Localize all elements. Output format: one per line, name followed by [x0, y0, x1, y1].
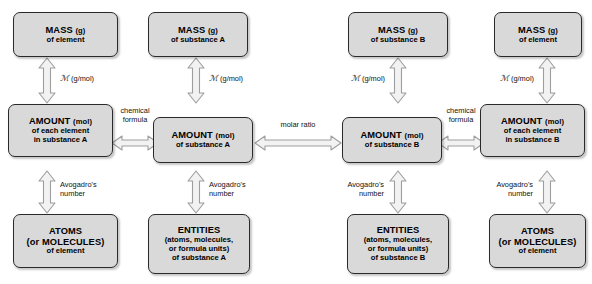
arrow-amount-atoms-col4: [538, 170, 556, 214]
arrow-amount-atoms-col1: [38, 170, 56, 214]
arrow-amount-entities-col3: [389, 170, 407, 214]
box-mass-substance-a: MASS (g) of substance A: [148, 12, 248, 57]
arrow-chemical-formula-right: [437, 135, 485, 151]
box-title: MASS (g): [46, 25, 86, 36]
arrow-chemical-formula-left: [111, 135, 159, 151]
box-subtitle: of substance A: [171, 36, 225, 45]
avogadro-line-1: Avogadro's: [330, 180, 384, 189]
box-subtitle-3: of substance B: [371, 254, 425, 263]
arrow-mass-amount-col4: [538, 57, 556, 104]
box-subtitle-2: of element: [47, 247, 85, 256]
chemical-line-2: formula: [436, 115, 486, 124]
box-subtitle: of substance B: [371, 36, 425, 45]
box-subtitle-2: in substance A: [34, 136, 88, 145]
chemical-line-1: chemical: [110, 106, 160, 115]
box-mass-substance-b: MASS (g) of substance B: [348, 12, 448, 57]
box-subtitle-3: of substance A: [172, 254, 226, 263]
molar-mass-symbol: ℳ: [500, 74, 509, 83]
box-atoms-element-right: ATOMS (or MOLECULES) of element: [489, 214, 586, 268]
avogadro-line-2: number: [209, 189, 246, 198]
chemical-line-2: formula: [110, 115, 160, 124]
box-amount-each-element-b: AMOUNT (mol) of each element in substanc…: [480, 104, 585, 157]
arrow-mass-amount-col3: [389, 57, 407, 104]
box-subtitle: of substance A: [176, 141, 230, 150]
molar-mass-symbol: ℳ: [209, 74, 218, 83]
box-title: ATOMS: [49, 226, 82, 237]
label-molar-mass-col4: ℳ (g/mol): [479, 74, 534, 84]
label-chemical-formula-left: chemical formula: [110, 106, 160, 124]
label-avogadro-col1: Avogadro's number: [60, 180, 97, 198]
molar-mass-units: (g/mol): [362, 74, 385, 83]
avogadro-line-1: Avogadro's: [209, 180, 246, 189]
label-avogadro-col2: Avogadro's number: [209, 180, 246, 198]
label-chemical-formula-right: chemical formula: [436, 106, 486, 124]
box-entities-substance-a: ENTITIES (atoms, molecules, or formula u…: [148, 214, 250, 274]
box-title: MASS (g): [178, 25, 218, 36]
box-amount-each-element-a: AMOUNT (mol) of each element in substanc…: [8, 104, 113, 157]
box-mass-element-right: MASS (g) of element: [494, 12, 582, 57]
molar-mass-symbol: ℳ: [351, 74, 360, 83]
avogadro-line-2: number: [479, 189, 533, 198]
label-molar-mass-col3: ℳ (g/mol): [330, 74, 385, 84]
box-subtitle: of element: [519, 36, 557, 45]
box-entities-substance-b: ENTITIES (atoms, molecules, or formula u…: [347, 214, 449, 274]
avogadro-line-1: Avogadro's: [479, 180, 533, 189]
label-molar-mass-col1: ℳ (g/mol): [60, 74, 94, 84]
molar-ratio-text: molar ratio: [254, 120, 342, 129]
avogadro-line-1: Avogadro's: [60, 180, 97, 189]
box-subtitle: of substance B: [365, 141, 419, 150]
box-title: MASS (g): [518, 25, 558, 36]
arrow-amount-entities-col2: [187, 170, 205, 214]
arrow-mass-amount-col2: [187, 57, 205, 104]
box-title: ATOMS: [521, 226, 554, 237]
box-amount-substance-a: AMOUNT (mol) of substance A: [153, 117, 253, 163]
avogadro-line-2: number: [60, 189, 97, 198]
avogadro-line-2: number: [330, 189, 384, 198]
arrow-molar-ratio: [254, 135, 342, 151]
label-avogadro-col3: Avogadro's number: [330, 180, 384, 198]
box-amount-substance-b: AMOUNT (mol) of substance B: [342, 117, 442, 163]
molar-mass-units: (g/mol): [71, 74, 94, 83]
label-molar-ratio: molar ratio: [254, 120, 342, 129]
molar-mass-units: (g/mol): [511, 74, 534, 83]
box-subtitle-2: in substance B: [505, 136, 559, 145]
box-title: MASS (g): [378, 25, 418, 36]
molar-mass-units: (g/mol): [220, 74, 243, 83]
box-atoms-element-left: ATOMS (or MOLECULES) of element: [13, 214, 118, 268]
stoichiometry-diagram: MASS (g) of element AMOUNT (mol) of each…: [0, 0, 592, 284]
molar-mass-symbol: ℳ: [60, 74, 69, 83]
box-mass-element-left: MASS (g) of element: [13, 12, 118, 57]
chemical-line-1: chemical: [436, 106, 486, 115]
box-subtitle-2: of element: [519, 247, 557, 256]
label-avogadro-col4: Avogadro's number: [479, 180, 533, 198]
label-molar-mass-col2: ℳ (g/mol): [209, 74, 243, 84]
arrow-mass-amount-col1: [38, 57, 56, 104]
box-subtitle: of element: [47, 36, 85, 45]
